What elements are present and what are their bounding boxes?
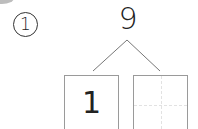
- part-box-right-answer[interactable]: [133, 75, 188, 129]
- part-value-left: 1: [65, 86, 118, 120]
- guide-line-horizontal: [134, 105, 187, 106]
- part-box-left: 1: [64, 75, 119, 129]
- guide-line-vertical: [161, 76, 162, 129]
